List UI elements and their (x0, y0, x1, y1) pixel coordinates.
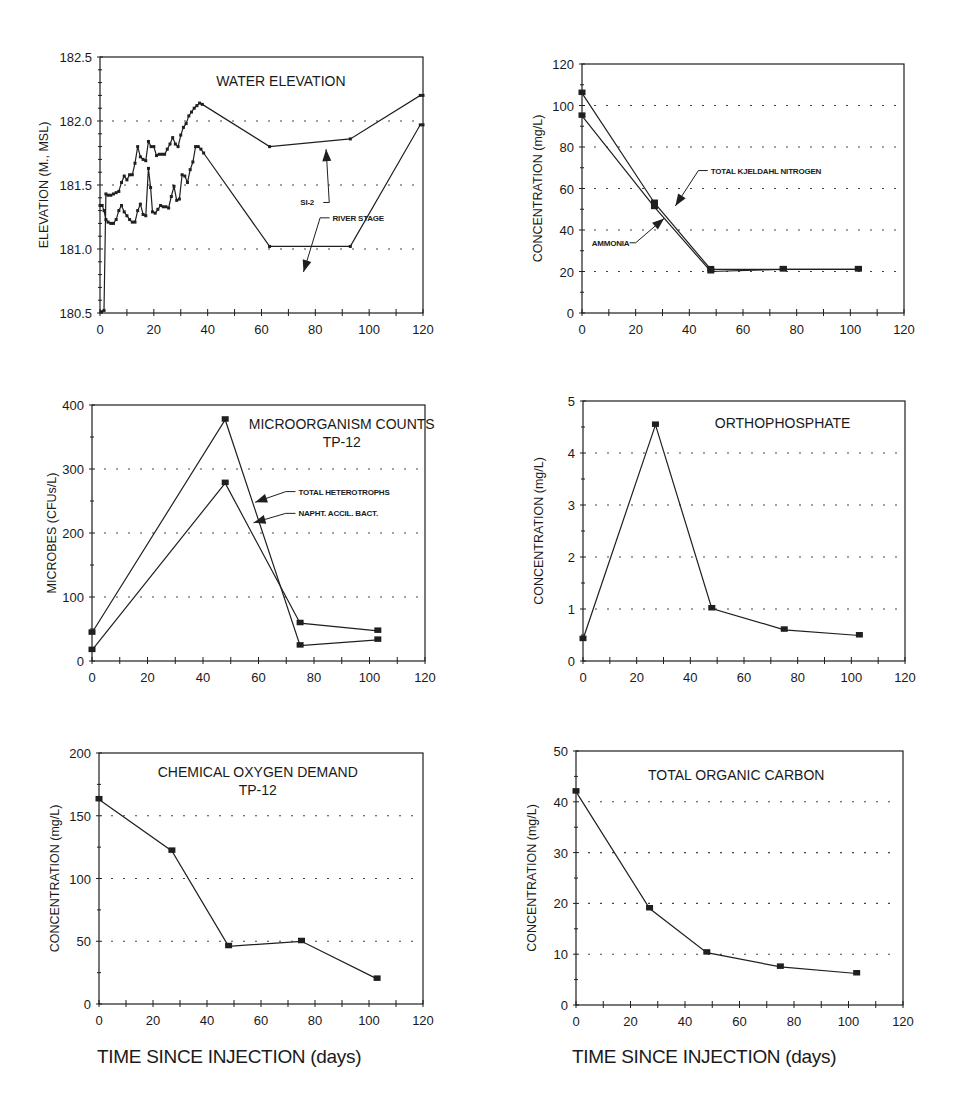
x-tick-label: 0 (88, 670, 95, 685)
y-tick-label: 120 (552, 57, 574, 72)
data-point-marker (199, 148, 202, 151)
data-point-marker (112, 192, 115, 195)
y-tick-label: 400 (62, 398, 84, 413)
y-tick-label: 0 (84, 997, 91, 1012)
data-point-marker (268, 245, 271, 248)
x-tick-label: 60 (251, 670, 265, 685)
y-tick-label: 0 (567, 306, 574, 321)
chart-nitrogen: 020406080100120020406080100120CONCENTRAT… (531, 57, 915, 337)
data-point-marker (579, 112, 586, 118)
y-tick-label: 200 (62, 526, 84, 541)
series-line (576, 792, 857, 974)
annotation-label: SI-2 (300, 198, 315, 207)
x-tick-label: 120 (412, 1013, 434, 1028)
data-point-marker (181, 173, 184, 176)
data-point-marker (123, 175, 126, 178)
y-tick-label: 0 (77, 654, 84, 669)
x-tick-label: 20 (623, 1014, 637, 1029)
data-point-marker (185, 122, 188, 125)
data-point-marker (268, 145, 271, 148)
x-tick-label: 0 (95, 1013, 102, 1028)
data-point-marker (703, 949, 710, 955)
x-tick-label: 120 (894, 670, 916, 685)
data-point-marker (780, 266, 787, 272)
data-point-marker (374, 627, 381, 633)
data-point-marker (189, 168, 192, 171)
series-si-2 (100, 94, 425, 313)
annotation-label: NAPHT. ACCIL. BACT. (298, 509, 377, 518)
x-tick-label: 0 (572, 1014, 579, 1029)
y-tick-label: 181.0 (59, 242, 92, 257)
chart-orthophosphate: 020406080100120012345CONCENTRATION (mg/L… (532, 394, 916, 685)
data-point-marker (579, 90, 586, 96)
x-tick-label: 80 (308, 322, 322, 337)
data-point-marker (164, 205, 167, 208)
x-axis-title-left: TIME SINCE INJECTION (days) (97, 1046, 361, 1068)
data-point-marker (117, 209, 120, 212)
data-point-marker (128, 218, 131, 221)
data-point-marker (855, 266, 862, 272)
data-point-marker (198, 102, 201, 105)
chart-title: MICROORGANISM COUNTS (249, 416, 435, 432)
data-point-marker (147, 140, 150, 143)
x-tick-label: 20 (629, 670, 643, 685)
series-line (99, 799, 377, 979)
annotation: TOTAL HETEROTROPHS (255, 488, 390, 503)
data-point-marker (103, 309, 106, 312)
data-point-marker (128, 173, 131, 176)
data-point-marker (178, 198, 181, 201)
data-point-marker (422, 123, 425, 126)
arrowhead-icon (303, 259, 312, 272)
series-line (92, 483, 378, 650)
data-point-marker (142, 158, 145, 161)
data-point-marker (853, 970, 860, 976)
chart-subtitle: TP-12 (323, 434, 361, 450)
data-point-marker (142, 213, 145, 216)
x-tick-label: 80 (307, 670, 321, 685)
y-tick-label: 30 (554, 846, 568, 861)
data-point-marker (109, 194, 112, 197)
data-point-marker (175, 199, 178, 202)
x-tick-label: 40 (200, 322, 214, 337)
y-axis-title: CONCENTRATION (mg/L) (532, 457, 546, 605)
data-point-marker (708, 605, 715, 611)
x-tick-label: 100 (840, 670, 862, 685)
data-point-marker (297, 642, 304, 648)
arrowhead-icon (652, 218, 664, 229)
data-point-marker (136, 209, 139, 212)
data-point-marker (100, 310, 103, 313)
data-point-marker (349, 245, 352, 248)
data-point-marker (89, 629, 96, 635)
data-point-marker (139, 155, 142, 158)
data-point-marker (150, 145, 153, 148)
arrowhead-icon (675, 193, 685, 206)
x-tick-label: 40 (682, 322, 696, 337)
y-axis-title: CONCENTRATION (mg/L) (48, 805, 62, 953)
y-tick-label: 20 (554, 896, 568, 911)
data-point-marker (298, 938, 305, 944)
data-point-marker (159, 204, 162, 207)
y-tick-label: 4 (568, 446, 575, 461)
annotation: NAPHT. ACCIL. BACT. (254, 509, 378, 523)
data-point-marker (117, 190, 120, 193)
annotation: RIVER STAGE (303, 214, 385, 272)
data-point-marker (103, 209, 106, 212)
data-point-marker (168, 143, 171, 146)
x-tick-label: 40 (200, 1013, 214, 1028)
data-point-marker (104, 218, 107, 221)
y-tick-label: 10 (554, 947, 568, 962)
x-tick-label: 20 (140, 670, 154, 685)
x-tick-label: 60 (254, 322, 268, 337)
x-tick-label: 100 (358, 322, 380, 337)
x-tick-label: 0 (96, 322, 103, 337)
arrowhead-icon (254, 515, 267, 524)
data-point-marker (133, 162, 136, 165)
chart-cod: 020406080100120050100150200CONCENTRATION… (48, 746, 434, 1028)
data-point-marker (202, 152, 205, 155)
data-point-marker (222, 480, 229, 486)
y-tick-label: 20 (560, 265, 574, 280)
x-tick-label: 20 (146, 1013, 160, 1028)
y-tick-label: 150 (69, 809, 91, 824)
data-point-marker (419, 123, 422, 126)
annotation-label: TOTAL KJELDAHL NITROGEN (711, 167, 822, 176)
